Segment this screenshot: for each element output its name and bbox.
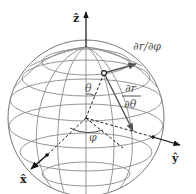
y-axis-label: ŷ xyxy=(171,152,179,165)
spherical-coordinates-diagram: ẑ x̂ ŷ θ φ ∂r/∂φ ∂r ∂θ xyxy=(0,0,196,194)
dr-dphi-vector xyxy=(104,64,136,73)
longitude-lines xyxy=(14,47,158,194)
theta-label: θ xyxy=(85,82,92,95)
x-axis-dashed xyxy=(47,118,86,155)
y-axis xyxy=(153,137,180,145)
dr-dphi-label: ∂r/∂φ xyxy=(133,40,161,53)
dr-dtheta-denominator: ∂θ xyxy=(124,98,137,111)
z-axis-label: ẑ xyxy=(73,12,79,25)
x-axis-label: x̂ xyxy=(20,173,27,186)
point-on-sphere xyxy=(102,71,107,76)
dr-dtheta-numerator: ∂r xyxy=(125,82,137,95)
phi-label: φ xyxy=(89,131,97,144)
